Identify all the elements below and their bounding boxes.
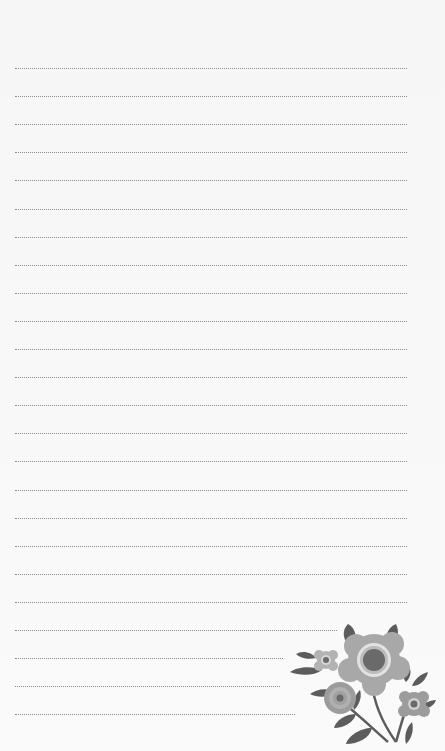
ruled-line [15, 658, 283, 659]
ruled-line [15, 518, 407, 519]
ruled-line [15, 714, 295, 715]
ruled-line [15, 96, 407, 97]
ruled-line [15, 546, 407, 547]
ruled-line [15, 490, 407, 491]
ruled-line [15, 349, 407, 350]
ruled-line [15, 152, 407, 153]
ruled-line [15, 433, 407, 434]
ruled-line [15, 574, 407, 575]
ruled-line [15, 293, 407, 294]
ruled-line [15, 180, 407, 181]
ruled-line [15, 237, 407, 238]
ruled-line [15, 68, 407, 69]
ruled-line [15, 265, 407, 266]
ruled-line [15, 209, 407, 210]
flower-bouquet-icon [288, 618, 438, 746]
ruled-line [15, 124, 407, 125]
ruled-line [15, 321, 407, 322]
ruled-line [15, 377, 407, 378]
notepaper [0, 0, 445, 751]
ruled-line [15, 405, 407, 406]
ruled-line [15, 686, 280, 687]
ruled-line [15, 602, 407, 603]
ruled-line [15, 461, 407, 462]
